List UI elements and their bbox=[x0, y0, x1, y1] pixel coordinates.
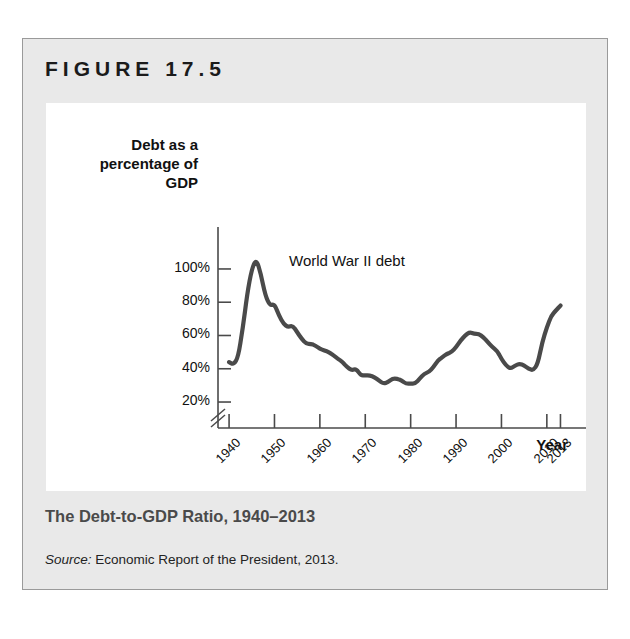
figure-source: Source: Economic Report of the President… bbox=[45, 552, 338, 567]
series-line-debt-to-gdp bbox=[229, 262, 560, 384]
figure-label: FIGURE 17.5 bbox=[45, 57, 226, 81]
source-prefix: Source: bbox=[45, 552, 92, 567]
x-tick-marks bbox=[229, 414, 560, 428]
figure-caption: The Debt-to-GDP Ratio, 1940–2013 bbox=[45, 507, 315, 526]
source-text: Economic Report of the President, 2013. bbox=[92, 552, 339, 567]
chart-plot-area: Debt as apercentage ofGDP Year 100%80%60… bbox=[46, 103, 586, 491]
axis-lines bbox=[218, 227, 586, 428]
chart-panel: Debt as apercentage ofGDP Year 100%80%60… bbox=[46, 103, 586, 491]
chart-svg bbox=[46, 103, 586, 491]
y-tick-marks bbox=[218, 269, 231, 402]
figure-card: FIGURE 17.5 Debt as apercentage ofGDP Ye… bbox=[22, 38, 608, 590]
